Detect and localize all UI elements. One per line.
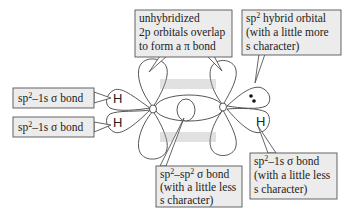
pointer-hybrid <box>255 54 265 83</box>
pi-overlap-bottom <box>160 133 216 141</box>
svg-text:s character): s character) <box>246 40 299 53</box>
label-pi-bond: unhybridized 2p orbitals overlap to form… <box>135 10 232 57</box>
pi-overlap-top <box>160 80 216 88</box>
svg-text:s character): s character) <box>254 183 307 196</box>
lone-pair-dot-2 <box>252 99 256 103</box>
h-bottom-left: H <box>113 115 122 130</box>
orbital-diagram: H H H unhybridized 2p orbitals overlap t… <box>0 0 344 215</box>
label-sigma-h-right: sp2–1s σ bond (with a little less s char… <box>250 153 337 199</box>
svg-text:(with a little less: (with a little less <box>254 169 331 182</box>
svg-text:unhybridized: unhybridized <box>139 12 200 25</box>
h-bottom-right: H <box>256 114 265 129</box>
label-hybrid-orbital: sp2 hybrid orbital (with a little more s… <box>242 10 341 55</box>
left-carbon-nucleus <box>150 105 157 113</box>
orbitals <box>107 59 270 159</box>
svg-text:s character): s character) <box>160 194 213 207</box>
right-p-orbital-top <box>210 60 236 105</box>
pointer-h-right <box>258 126 276 153</box>
svg-text:(with a little less: (with a little less <box>160 181 237 194</box>
h-top-left: H <box>113 91 122 106</box>
label-sigma-cc: sp2–sp2 σ bond (with a little less s cha… <box>156 166 242 207</box>
svg-text:2p orbitals overlap: 2p orbitals overlap <box>139 26 225 39</box>
svg-text:to form a π bond: to form a π bond <box>139 40 216 52</box>
svg-text:sp2–1s σ bond: sp2–1s σ bond <box>18 91 83 105</box>
label-sigma-h-top-left: sp2–1s σ bond <box>13 88 94 108</box>
right-sp2-orbital-upper <box>227 87 270 108</box>
svg-text:(with a little more: (with a little more <box>246 26 329 39</box>
lone-pair-dot-1 <box>249 94 253 98</box>
cc-sigma-inner-lobe <box>177 99 195 121</box>
svg-text:sp2–1s σ bond: sp2–1s σ bond <box>254 154 319 168</box>
right-carbon-nucleus <box>220 103 227 111</box>
label-sigma-h-bottom-left: sp2–1s σ bond <box>13 117 94 137</box>
svg-text:sp2–1s σ bond: sp2–1s σ bond <box>18 120 83 134</box>
